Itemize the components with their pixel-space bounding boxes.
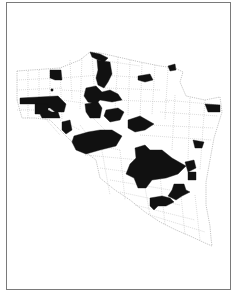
county-highlight: [51, 89, 53, 91]
county-highlight: [188, 172, 196, 180]
state-outline: [17, 52, 222, 246]
county-highlight: [50, 70, 62, 80]
county-map: [0, 0, 237, 297]
